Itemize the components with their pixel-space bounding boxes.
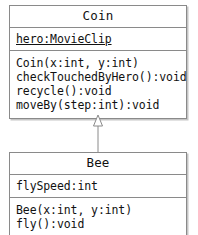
operation-recycle: recycle():void (16, 84, 186, 98)
attributes-compartment-coin: hero:MovieClip (10, 27, 186, 50)
class-name-coin: Coin (10, 9, 186, 23)
operation-fly: fly():void (16, 217, 186, 231)
operation-move-by: moveBy(step:int):void (16, 98, 186, 112)
attribute-hero: hero:MovieClip (16, 32, 186, 46)
operation-check-touched-by-hero: checkTouchedByHero():void (16, 70, 186, 84)
class-name-compartment-coin: Coin (10, 6, 186, 27)
attribute-fly-speed: flySpeed:int (16, 179, 186, 193)
class-name-bee: Bee (10, 156, 186, 170)
operations-compartment-coin: Coin(x:int, y:int) checkTouchedByHero():… (10, 50, 186, 118)
class-box-coin[interactable]: Coin hero:MovieClip Coin(x:int, y:int) c… (9, 5, 187, 119)
operation-coin-constructor: Coin(x:int, y:int) (16, 56, 186, 70)
class-name-compartment-bee: Bee (10, 153, 186, 174)
operation-bee-constructor: Bee(x:int, y:int) (16, 203, 186, 217)
uml-class-diagram: Coin hero:MovieClip Coin(x:int, y:int) c… (0, 0, 198, 235)
attributes-compartment-bee: flySpeed:int (10, 174, 186, 197)
operations-compartment-bee: Bee(x:int, y:int) fly():void (10, 197, 186, 235)
class-box-bee[interactable]: Bee flySpeed:int Bee(x:int, y:int) fly()… (9, 152, 187, 235)
